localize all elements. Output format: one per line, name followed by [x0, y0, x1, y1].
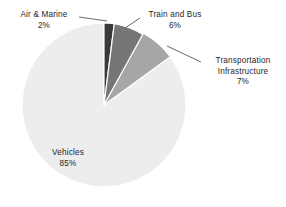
slice-label-train-bus: Train and Bus 6% — [141, 10, 209, 31]
leader-line-air-marine — [79, 17, 107, 21]
slice-label-air-marine-percent: 2% — [8, 21, 80, 32]
slice-label-vehicles: Vehicles 85% — [35, 148, 101, 169]
slice-label-transportation-infrastructure-name-line1: Transportation — [216, 56, 271, 65]
pie-chart-graphic — [0, 0, 286, 207]
slice-label-train-bus-name: Train and Bus — [149, 10, 202, 19]
slice-label-air-marine: Air & Marine 2% — [8, 10, 80, 31]
slice-label-transportation-infrastructure: Transportation Infrastructure 7% — [202, 56, 284, 88]
slice-label-air-marine-name: Air & Marine — [20, 10, 67, 19]
slice-label-vehicles-percent: 85% — [35, 159, 101, 170]
slice-label-transportation-infrastructure-name-line2: Infrastructure — [202, 67, 284, 78]
slice-label-transportation-infrastructure-percent: 7% — [202, 77, 284, 88]
leader-line-train-bus — [125, 18, 140, 28]
pie-chart: Air & Marine 2% Train and Bus 6% Transpo… — [0, 0, 286, 207]
slice-label-train-bus-percent: 6% — [141, 21, 209, 32]
slice-label-vehicles-name: Vehicles — [52, 148, 84, 157]
